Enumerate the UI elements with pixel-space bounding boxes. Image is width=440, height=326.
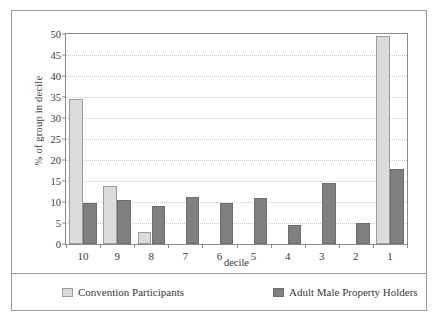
- bar-convention-participants-decile-9: [103, 186, 117, 244]
- x-axis-title: decile: [65, 257, 408, 268]
- y-tick-label: 35: [51, 92, 62, 103]
- plot-area: 05101520253035404550 10987654321: [65, 33, 408, 245]
- bar-series-layer: [66, 34, 407, 244]
- bar-adult-male-property-holders-decile-3: [322, 183, 336, 244]
- legend-swatch-icon: [273, 288, 284, 297]
- y-tick-label: 10: [51, 197, 62, 208]
- y-tick-label: 50: [51, 29, 62, 40]
- bar-convention-participants-decile-1: [376, 36, 390, 244]
- x-tick-mark: [271, 244, 272, 248]
- bar-convention-participants-decile-8: [138, 232, 152, 244]
- legend-item-convention-participants: Convention Participants: [62, 286, 184, 298]
- x-tick-mark: [339, 244, 340, 248]
- legend: Convention Participants Adult Male Prope…: [12, 273, 426, 311]
- bar-adult-male-property-holders-decile-6: [220, 203, 234, 244]
- bar-adult-male-property-holders-decile-1: [390, 169, 404, 244]
- bar-adult-male-property-holders-decile-8: [152, 206, 166, 244]
- x-tick-mark: [305, 244, 306, 248]
- y-tick-label: 40: [51, 71, 62, 82]
- x-tick-mark: [237, 244, 238, 248]
- chart-area: % of group in decile 0510152025303540455…: [12, 11, 426, 273]
- bar-adult-male-property-holders-decile-4: [288, 225, 302, 244]
- y-tick-label: 5: [56, 218, 61, 229]
- legend-swatch-icon: [62, 288, 73, 297]
- y-tick-label: 15: [51, 176, 62, 187]
- bar-adult-male-property-holders-decile-9: [117, 200, 131, 244]
- x-tick-mark: [202, 244, 203, 248]
- legend-label: Convention Participants: [78, 286, 184, 298]
- bar-convention-participants-decile-10: [69, 99, 83, 244]
- x-tick-mark: [168, 244, 169, 248]
- y-tick-label: 25: [51, 134, 62, 145]
- x-tick-mark: [373, 244, 374, 248]
- y-tick-label: 45: [51, 50, 62, 61]
- y-tick-label: 0: [56, 239, 61, 250]
- y-tick-label: 20: [51, 155, 62, 166]
- figure-frame: % of group in decile 0510152025303540455…: [11, 10, 427, 311]
- legend-item-adult-male-property-holders: Adult Male Property Holders: [273, 286, 418, 298]
- y-tick-label: 30: [51, 113, 62, 124]
- bar-adult-male-property-holders-decile-2: [356, 223, 370, 244]
- bar-adult-male-property-holders-decile-10: [83, 203, 97, 244]
- x-tick-mark: [100, 244, 101, 248]
- x-tick-mark: [66, 244, 67, 248]
- bar-adult-male-property-holders-decile-5: [254, 198, 268, 244]
- y-axis-title: % of group in decile: [33, 51, 44, 191]
- x-tick-mark: [134, 244, 135, 248]
- legend-label: Adult Male Property Holders: [289, 286, 418, 298]
- x-tick-mark: [407, 244, 408, 248]
- bar-adult-male-property-holders-decile-7: [186, 197, 200, 244]
